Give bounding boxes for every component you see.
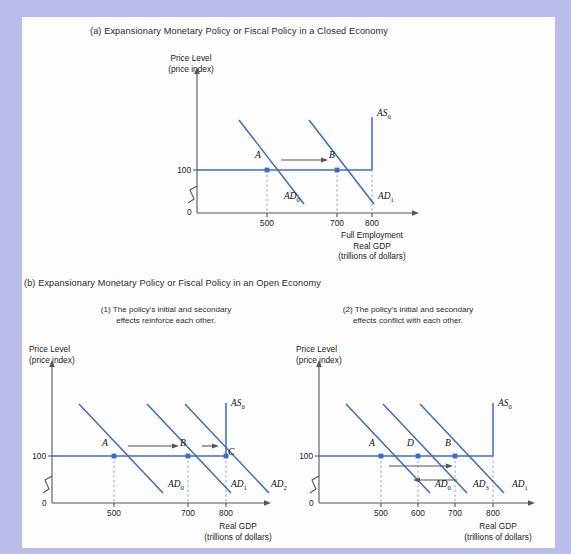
panel-b1-xlabel-line2: (trillions of dollars) bbox=[204, 532, 271, 542]
panel-b1-as0-label-text: AS bbox=[231, 398, 241, 408]
panel-b2-ad0-label-text: AD bbox=[435, 479, 448, 489]
panel-b1-point-B-marker bbox=[186, 454, 191, 459]
panel-b2-as0-label-text: AS bbox=[498, 398, 508, 408]
panel-b1-caption: (1) The policy's initial and secondary e… bbox=[66, 304, 266, 326]
panel-b-title: (b) Expansionary Monetary Policy or Fisc… bbox=[24, 278, 321, 288]
panel-b2-xtick-label-600: 600 bbox=[400, 508, 436, 518]
panel-b2-ad0-label: AD0 bbox=[435, 479, 451, 491]
panel-a-point-B-label: B bbox=[329, 149, 335, 160]
panel-b1-point-B-label: B bbox=[180, 437, 186, 448]
panel-a-xtick-label-800: 800 bbox=[354, 218, 390, 228]
panel-b2-xlabel-line1: Real GDP bbox=[479, 521, 516, 531]
panel-b1-ytick-label-100: 100 bbox=[22, 451, 46, 461]
panel-b1-ad0-label-sub: 0 bbox=[181, 484, 184, 491]
panel-a-as0-label-sub: 0 bbox=[387, 113, 390, 120]
panel-b1-caption-line1: (1) The policy's initial and secondary bbox=[101, 305, 232, 314]
panel-b1-origin-label: 0 bbox=[42, 498, 47, 508]
figure-page: (a) Expansionary Monetary Policy or Fisc… bbox=[22, 17, 555, 548]
panel-a-point-A-marker bbox=[265, 168, 270, 173]
panel-b2-ad3-label-text: AD bbox=[473, 479, 486, 489]
panel-b1-ad0-label-text: AD bbox=[168, 479, 181, 489]
panel-a-point-B-marker bbox=[335, 168, 340, 173]
panel-a-point-A-label: A bbox=[255, 149, 261, 160]
panel-b1-ad2-curve bbox=[185, 404, 269, 493]
panel-a-x-axis-arrow bbox=[412, 210, 419, 216]
panel-a-xtick-label-500: 500 bbox=[249, 218, 285, 228]
panel-b2-point-D-marker bbox=[416, 454, 421, 459]
panel-a-xlabel-line1: Full Employment bbox=[341, 230, 403, 240]
panel-b2-y-axis-arrow bbox=[316, 360, 322, 367]
panel-b1-chart bbox=[22, 335, 302, 548]
panel-b1-x-axis-arrow bbox=[264, 500, 271, 506]
panel-b1-xtick-label-700: 700 bbox=[170, 508, 206, 518]
panel-b2-point-D-label: D bbox=[407, 437, 414, 448]
panel-b1-ad2-label-sub: 2 bbox=[284, 484, 287, 491]
panel-b1-caption-line2: effects reinforce each other. bbox=[116, 316, 216, 325]
panel-b2-point-B-marker bbox=[453, 454, 458, 459]
panel-a-xlabel-line3: (trillions of dollars) bbox=[338, 251, 405, 261]
panel-b2-arrow-A-to-B-head bbox=[446, 463, 453, 468]
panel-b1-xlabel-line1: Real GDP bbox=[219, 521, 256, 531]
panel-b2-caption: (2) The policy's initial and secondary e… bbox=[308, 304, 508, 326]
panel-b1-as0-label: AS0 bbox=[231, 398, 245, 410]
panel-a-y-axis-arrow bbox=[194, 67, 200, 74]
panel-a-xlabel-line2: Real GDP bbox=[353, 241, 390, 251]
panel-b1-arrow-B-to-C-head bbox=[212, 443, 219, 448]
panel-b1-x-axis-label: Real GDP (trillions of dollars) bbox=[177, 521, 299, 542]
panel-a-x-axis-label: Full Employment Real GDP (trillions of d… bbox=[311, 230, 433, 262]
panel-b1-ad1-curve bbox=[147, 404, 231, 493]
panel-b2-xlabel-line2: (trillions of dollars) bbox=[464, 532, 531, 542]
panel-b2-x-axis-arrow bbox=[528, 500, 535, 506]
panel-b2-xtick-label-700: 700 bbox=[437, 508, 473, 518]
panel-b1-point-A-marker bbox=[112, 454, 117, 459]
panel-b2-ad3-label-sub: 3 bbox=[486, 484, 489, 491]
panel-a-ad1-label-sub: 1 bbox=[391, 196, 394, 203]
panel-a-axis-break-icon bbox=[188, 186, 197, 203]
panel-a-xtick-label-700: 700 bbox=[319, 218, 355, 228]
panel-a-plot bbox=[22, 17, 555, 277]
panel-b1-xtick-label-800: 800 bbox=[208, 508, 244, 518]
panel-b2-xtick-label-500: 500 bbox=[363, 508, 399, 518]
panel-a-origin-label: 0 bbox=[187, 207, 192, 217]
panel-b1-point-C-label: C bbox=[228, 446, 234, 457]
panel-b1-ad0-label: AD0 bbox=[168, 479, 184, 491]
panel-b2-point-A-label: A bbox=[369, 437, 375, 448]
panel-b2-ad3-label: AD3 bbox=[473, 479, 489, 491]
panel-b2-caption-line2: effects conflict with each other. bbox=[353, 316, 463, 325]
panel-a-ad1-label: AD1 bbox=[378, 191, 394, 203]
panel-b2-as0-label: AS0 bbox=[498, 398, 512, 410]
panel-b1-point-A-label: A bbox=[102, 437, 108, 448]
panel-b1-plot bbox=[22, 335, 302, 548]
panel-a-ad0-label-text: AD bbox=[284, 191, 297, 201]
panel-b2-ad1-label: AD1 bbox=[512, 479, 528, 491]
panel-b1-xtick-label-500: 500 bbox=[96, 508, 132, 518]
panel-b1-ad2-label: AD2 bbox=[271, 479, 287, 491]
panel-b2-ad0-label-sub: 0 bbox=[448, 484, 451, 491]
panel-b2-x-axis-label: Real GDP (trillions of dollars) bbox=[437, 521, 555, 542]
panel-a-ad0-label: AD0 bbox=[284, 191, 300, 203]
panel-b2-origin-label: 0 bbox=[309, 498, 314, 508]
panel-a-ytick-label-100: 100 bbox=[167, 165, 191, 175]
panel-b1-y-axis-arrow bbox=[49, 360, 55, 367]
panel-a-ad1-curve bbox=[309, 120, 374, 204]
panel-b2-xtick-label-800: 800 bbox=[475, 508, 511, 518]
panel-a-as0-label: AS0 bbox=[377, 108, 391, 120]
panel-a-arrow-A-to-B-head bbox=[321, 157, 328, 162]
panel-b1-ad1-label: AD1 bbox=[231, 479, 247, 491]
panel-b1-ad1-label-text: AD bbox=[231, 479, 244, 489]
panel-b2-ytick-label-100: 100 bbox=[289, 451, 313, 461]
panel-b1-axis-break-icon bbox=[43, 476, 52, 493]
panel-b1-ad0-curve bbox=[79, 404, 163, 493]
panel-a-ad1-label-text: AD bbox=[378, 191, 391, 201]
panel-b2-ad1-label-sub: 1 bbox=[525, 484, 528, 491]
panel-a-ad0-label-sub: 0 bbox=[297, 196, 300, 203]
panel-b2-ad1-label-text: AD bbox=[512, 479, 525, 489]
panel-b1-as0-label-sub: 0 bbox=[241, 403, 244, 410]
panel-a-as0-label-text: AS bbox=[377, 108, 387, 118]
panel-b2-caption-line1: (2) The policy's initial and secondary bbox=[343, 305, 474, 314]
panel-b2-as0-label-sub: 0 bbox=[508, 403, 511, 410]
panel-b2-axis-break-icon bbox=[310, 476, 319, 493]
panel-b1-ad1-label-sub: 1 bbox=[244, 484, 247, 491]
panel-b1-ad2-label-text: AD bbox=[271, 479, 284, 489]
panel-b2-point-B-label: B bbox=[445, 437, 451, 448]
